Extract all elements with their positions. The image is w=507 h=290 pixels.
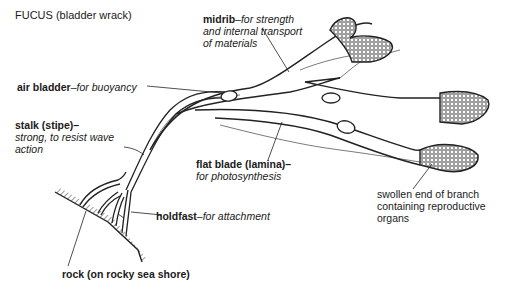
rock	[55, 187, 146, 262]
label-stalk: stalk (stipe)– strong, to resist wave ac…	[15, 119, 114, 155]
holdfast-desc: –for attachment	[197, 210, 270, 222]
swollen-end-line-2: containing reproductive	[377, 200, 486, 212]
diagram-title: FUCUS (bladder wrack)	[15, 9, 132, 21]
air-bladders	[220, 90, 356, 135]
stalk-desc-1: strong, to resist wave	[15, 131, 114, 143]
stalk-desc-2: action	[15, 143, 43, 155]
flat-blade-desc: for photosynthesis	[196, 170, 281, 182]
midrib-term: midrib	[203, 13, 235, 25]
swollen-end-line-1: swollen end of branch	[377, 188, 479, 200]
label-midrib: midrib–for strength and internal transpo…	[203, 13, 302, 49]
air-bladder-desc: –for buoyancy	[71, 81, 137, 93]
swollen-end-line-3: organs	[377, 212, 409, 224]
label-air-bladder: air bladder–for buoyancy	[17, 81, 137, 93]
flat-blade-term: flat blade (lamina)–	[196, 158, 291, 170]
label-rock: rock (on rocky sea shore)	[62, 268, 190, 280]
label-flat-blade: flat blade (lamina)– for photosynthesis	[196, 158, 291, 182]
air-bladder-term: air bladder	[17, 81, 71, 93]
label-holdfast: holdfast–for attachment	[156, 210, 270, 222]
midrib-desc-2: and internal transport	[203, 25, 302, 37]
midrib-desc-1: –for strength	[235, 13, 294, 25]
label-swollen-end: swollen end of branch containing reprodu…	[377, 188, 486, 224]
midrib-desc-3: of materials	[203, 37, 257, 49]
stalk-term: stalk (stipe)–	[15, 119, 79, 131]
holdfast-term: holdfast	[156, 210, 197, 222]
